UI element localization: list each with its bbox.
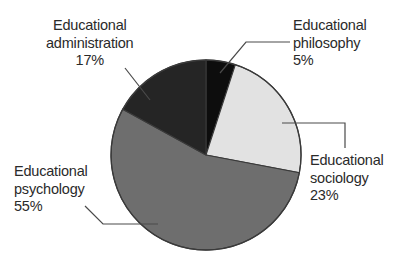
pie-label-line2: psychology <box>14 181 88 199</box>
pie-label-line1: Educational <box>310 152 384 170</box>
pie-label-line2: administration <box>46 35 133 53</box>
pie-label-percent: 5% <box>293 52 367 70</box>
pie-label-line1: Educational <box>14 163 88 181</box>
pie-label-line2: philosophy <box>293 35 367 53</box>
pie-label-educational-administration: Educational administration 17% <box>46 17 133 70</box>
pie-label-line2: sociology <box>310 170 384 188</box>
pie-label-percent: 55% <box>14 198 88 216</box>
pie-label-percent: 23% <box>310 187 384 205</box>
pie-label-educational-sociology: Educational sociology 23% <box>310 152 384 205</box>
pie-label-line1: Educational <box>46 17 133 35</box>
pie-label-educational-philosophy: Educational philosophy 5% <box>293 17 367 70</box>
pie-label-educational-psychology: Educational psychology 55% <box>14 163 88 216</box>
pie-label-line1: Educational <box>293 17 367 35</box>
pie-chart-figure: Educational administration 17% Education… <box>0 0 414 280</box>
pie-label-percent: 17% <box>46 52 133 70</box>
